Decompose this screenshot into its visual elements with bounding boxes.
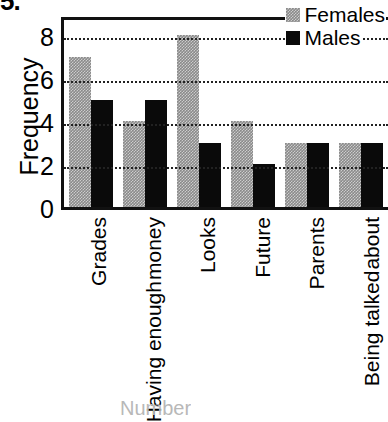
y-tick-label: 8 [28, 25, 54, 50]
bar-females-parents [285, 143, 307, 207]
x-label-cell: Having enoughmoney [116, 213, 171, 388]
bar-females-having-enough-money [123, 121, 145, 207]
x-axis-category-labels: GradesHaving enoughmoneyLooksFutureParen… [61, 213, 388, 388]
x-axis-label: Parents [306, 217, 327, 289]
x-axis-label: Having enoughmoney [143, 217, 164, 422]
x-axis-title-stub: Number [120, 398, 191, 416]
bar-group [118, 20, 172, 207]
gridline [64, 81, 388, 83]
legend-item: Females [285, 4, 386, 25]
x-label-cell: Parents [279, 213, 334, 388]
x-label-cell: Grades [61, 213, 116, 388]
bar-females-future [231, 121, 253, 207]
legend-label: Females [304, 4, 385, 25]
y-tick-label: 0 [28, 197, 54, 222]
bar-males-future [253, 164, 275, 207]
bar-females-looks [177, 35, 199, 207]
gray-square-icon [286, 8, 300, 22]
x-axis-label: Grades [88, 217, 109, 286]
bar-group [172, 20, 226, 207]
x-axis-label-line: Grades [88, 217, 109, 286]
y-tick-label: 6 [28, 68, 54, 93]
gridline [64, 124, 388, 126]
x-axis-label-line: money [143, 217, 164, 280]
x-axis-label-line: Future [252, 217, 273, 278]
x-axis-label: Looks [197, 217, 218, 273]
chart-legend: FemalesMales [285, 4, 386, 48]
black-square-icon [286, 31, 300, 45]
legend-item: Males [285, 27, 361, 48]
bar-group [64, 20, 118, 207]
y-tick-label: 4 [28, 111, 54, 136]
x-label-cell: Being talkedabout [334, 213, 388, 388]
x-axis-label-line: Parents [306, 217, 327, 289]
x-label-cell: Looks [170, 213, 225, 388]
y-tick-label: 2 [28, 154, 54, 179]
figure-caption-stub: 5. [0, 0, 20, 14]
gridline [64, 167, 388, 169]
y-axis-tick-labels: 02468 [20, 0, 54, 416]
x-axis-label: Future [252, 217, 273, 278]
bar-males-being-talked-about [361, 143, 383, 207]
x-axis-label-line: Being talked [361, 271, 382, 387]
bar-males-having-enough-money [145, 100, 167, 207]
bar-group [226, 20, 280, 207]
x-axis-label: Being talkedabout [361, 217, 382, 386]
bar-males-parents [307, 143, 329, 207]
bar-males-looks [199, 143, 221, 207]
x-axis-label-line: about [361, 217, 382, 270]
x-label-cell: Future [225, 213, 280, 388]
bar-males-grades [91, 100, 113, 207]
legend-label: Males [304, 27, 360, 48]
bar-females-grades [69, 57, 91, 207]
bar-females-being-talked-about [339, 143, 361, 207]
x-axis-label-line: Looks [197, 217, 218, 273]
